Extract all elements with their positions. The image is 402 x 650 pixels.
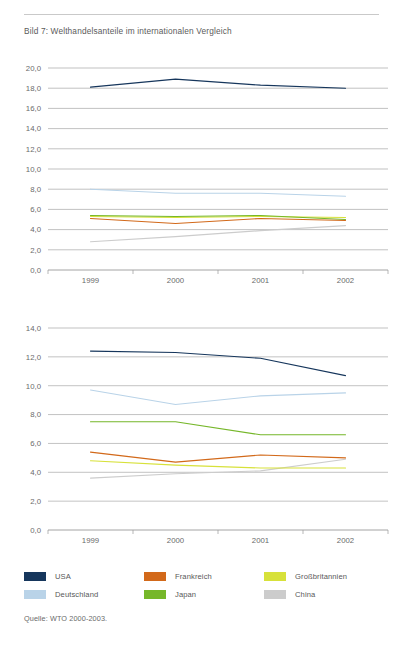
y-axis-tick-label: 14,0 xyxy=(26,324,42,333)
header-divider xyxy=(24,14,379,15)
y-axis-tick-label: 14,0 xyxy=(26,124,42,133)
legend-row: USA Frankreich Großbritannien xyxy=(24,572,384,581)
legend-label: Japan xyxy=(175,590,196,599)
y-axis-tick-label: 6,0 xyxy=(30,205,42,214)
series-line-frankreich xyxy=(91,218,346,223)
legend-swatch-icon xyxy=(144,590,166,599)
x-axis-tick-label: 2000 xyxy=(167,276,185,285)
x-axis-tick-label: 2001 xyxy=(252,536,269,545)
x-axis-tick-label: 2000 xyxy=(167,536,185,545)
legend-swatch-icon xyxy=(24,572,46,581)
legend-swatch-icon xyxy=(264,572,286,581)
legend-row: Deutschland Japan China xyxy=(24,590,384,599)
y-axis-tick-label: 4,0 xyxy=(30,225,42,234)
legend-item-japan: Japan xyxy=(144,590,264,599)
y-axis-tick-label: 18,0 xyxy=(26,84,42,93)
legend-label: Frankreich xyxy=(175,572,212,581)
y-axis-tick-label: 12,0 xyxy=(26,353,42,362)
series-line-frankreich xyxy=(91,452,346,462)
y-axis-tick-label: 10,0 xyxy=(26,165,42,174)
legend-item-deutschland: Deutschland xyxy=(24,590,144,599)
y-axis-tick-label: 4,0 xyxy=(30,468,42,477)
chart-legend: USA Frankreich Großbritannien Deutschlan… xyxy=(24,572,384,608)
y-axis-tick-label: 2,0 xyxy=(30,497,42,506)
chart-exports: 0,02,04,06,08,010,012,014,016,018,020,01… xyxy=(0,58,402,298)
y-axis-tick-label: 12,0 xyxy=(26,145,42,154)
y-axis-tick-label: 16,0 xyxy=(26,104,42,113)
x-axis-tick-label: 2002 xyxy=(337,536,354,545)
y-axis-tick-label: 2,0 xyxy=(30,246,42,255)
y-axis-tick-label: 8,0 xyxy=(30,410,42,419)
series-line-usa xyxy=(91,351,346,376)
figure-title: Bild 7: Welthandelsanteile im internatio… xyxy=(24,26,232,36)
legend-swatch-icon xyxy=(24,590,46,599)
chart-canvas: 0,02,04,06,08,010,012,014,016,018,020,01… xyxy=(0,58,402,298)
series-line-deutschland xyxy=(91,390,346,404)
series-line-usa xyxy=(91,79,346,88)
series-line-china xyxy=(91,226,346,242)
chart-canvas: 0,02,04,06,08,010,012,014,01999200020012… xyxy=(0,318,402,558)
y-axis-tick-label: 0,0 xyxy=(30,266,42,275)
y-axis-tick-label: 6,0 xyxy=(30,439,42,448)
legend-swatch-icon xyxy=(144,572,166,581)
legend-label: Deutschland xyxy=(55,590,98,599)
legend-label: USA xyxy=(55,572,71,581)
figure-page: Bild 7: Welthandelsanteile im internatio… xyxy=(0,0,402,650)
legend-item-frankreich: Frankreich xyxy=(144,572,264,581)
series-line-japan xyxy=(91,422,346,435)
y-axis-tick-label: 10,0 xyxy=(26,382,42,391)
legend-label: Großbritannien xyxy=(295,572,347,581)
chart-imports: 0,02,04,06,08,010,012,014,01999200020012… xyxy=(0,318,402,558)
x-axis-tick-label: 1999 xyxy=(82,536,99,545)
x-axis-tick-label: 2002 xyxy=(337,276,354,285)
source-note: Quelle: WTO 2000-2003. xyxy=(24,614,107,623)
legend-item-usa: USA xyxy=(24,572,144,581)
legend-label: China xyxy=(295,590,315,599)
y-axis-tick-label: 20,0 xyxy=(26,64,42,73)
legend-item-grossbritannien: Großbritannien xyxy=(264,572,384,581)
y-axis-tick-label: 8,0 xyxy=(30,185,42,194)
legend-swatch-icon xyxy=(264,590,286,599)
legend-item-china: China xyxy=(264,590,384,599)
series-line-deutschland xyxy=(91,189,346,196)
y-axis-tick-label: 0,0 xyxy=(30,526,42,535)
x-axis-tick-label: 2001 xyxy=(252,276,269,285)
x-axis-tick-label: 1999 xyxy=(82,276,99,285)
